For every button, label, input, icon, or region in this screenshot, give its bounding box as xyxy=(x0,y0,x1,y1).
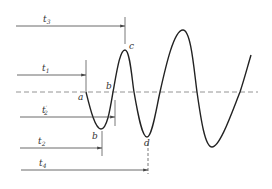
t2-prime-label: t′2 xyxy=(42,104,48,116)
point-b-lower-label: b xyxy=(92,131,98,141)
point-b-upper-label: b xyxy=(106,81,112,91)
waveform-diagram: t3 t1 t′2 t2 t4 a b b c d xyxy=(0,0,272,189)
t2-label: t2 xyxy=(38,136,46,147)
t3-label: t3 xyxy=(43,14,51,25)
t4-label: t4 xyxy=(39,158,47,169)
t1-label: t1 xyxy=(42,63,49,74)
point-a-label: a xyxy=(78,92,83,102)
point-d-label: d xyxy=(144,138,150,148)
point-c-label: c xyxy=(129,41,134,51)
